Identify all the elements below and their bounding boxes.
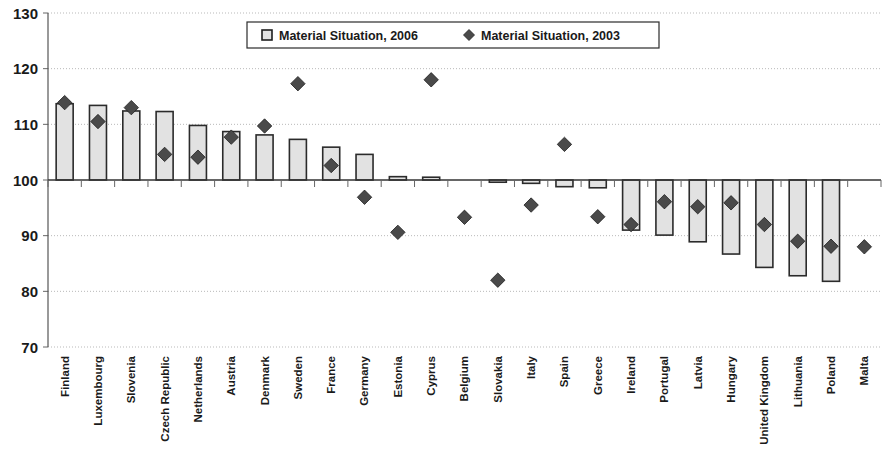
x-label-cyprus: Cyprus [425,356,437,396]
bar-poland [823,180,840,281]
x-label-latvia: Latvia [692,355,704,389]
x-label-malta: Malta [858,355,870,385]
x-label-czech-republic: Czech Republic [159,355,171,441]
bar-slovenia [123,111,140,180]
y-tick-label: 80 [21,283,38,300]
diamond-denmark [257,119,271,133]
x-label-ireland: Ireland [625,356,637,394]
diamond-belgium [457,210,471,224]
x-label-united-kingdom: United Kingdom [758,356,770,445]
material-situation-chart: 708090100110120130 FinlandLuxembourgSlov… [0,0,887,463]
bar-hungary [723,180,740,254]
diamond-sweden [291,76,305,90]
bar-germany [356,154,373,180]
legend-label: Material Situation, 2006 [279,29,418,43]
y-tick-label: 100 [13,172,38,189]
y-tick-label: 120 [13,60,38,77]
chart-container: 708090100110120130 FinlandLuxembourgSlov… [0,0,887,463]
x-label-sweden: Sweden [292,356,304,399]
bar-sweden [289,139,306,180]
y-axis-ticks: 708090100110120130 [13,5,48,356]
bar-greece [589,180,606,188]
diamond-germany [357,190,371,204]
diamond-greece [591,210,605,224]
y-tick-label: 130 [13,5,38,22]
bar-denmark [256,135,273,180]
x-label-spain: Spain [558,356,570,387]
bar-series [56,104,839,282]
y-tick-label: 110 [14,116,38,133]
x-label-poland: Poland [825,356,837,394]
y-tick-label: 90 [21,227,38,244]
x-axis-labels: FinlandLuxembourgSloveniaCzech RepublicN… [59,355,871,444]
x-label-luxembourg: Luxembourg [92,356,104,426]
x-label-estonia: Estonia [392,355,404,397]
diamond-spain [557,137,571,151]
x-label-finland: Finland [59,356,71,397]
x-label-austria: Austria [225,355,237,395]
x-label-netherlands: Netherlands [192,356,204,422]
bar-czech-republic [156,112,173,180]
chart-legend: Material Situation, 2006Material Situati… [247,22,659,48]
y-tick-label: 70 [21,339,38,356]
bar-spain [556,180,573,187]
diamond-italy [524,198,538,212]
x-label-italy: Italy [525,355,537,379]
x-label-denmark: Denmark [258,355,270,405]
diamond-malta [857,240,871,254]
x-label-lithuania: Lithuania [792,355,804,407]
legend-square-marker-icon [262,30,272,40]
x-label-portugal: Portugal [658,356,670,403]
x-label-germany: Germany [358,355,370,405]
bar-finland [56,104,73,180]
x-label-greece: Greece [592,356,604,395]
x-label-france: France [325,356,337,394]
legend-label: Material Situation, 2003 [481,29,620,43]
diamond-estonia [391,225,405,239]
x-label-slovakia: Slovakia [492,355,504,402]
diamond-cyprus [424,73,438,87]
x-label-belgium: Belgium [458,356,470,401]
diamond-slovakia [491,273,505,287]
x-label-slovenia: Slovenia [125,355,137,403]
x-label-hungary: Hungary [725,355,737,402]
bar-lithuania [789,180,806,276]
